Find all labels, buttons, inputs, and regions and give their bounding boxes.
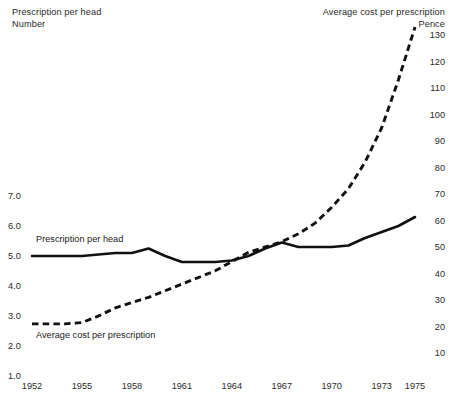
plot-area: [0, 0, 453, 402]
y-right-tick-10: 10: [415, 348, 445, 358]
y-right-tick-30: 30: [415, 295, 445, 305]
x-tick-1958: 1958: [112, 381, 152, 391]
x-tick-1961: 1961: [162, 381, 202, 391]
series-line-average-cost-per-prescription: [32, 27, 415, 324]
y-right-tick-40: 40: [415, 269, 445, 279]
x-tick-1975: 1975: [395, 381, 435, 391]
x-tick-1964: 1964: [212, 381, 252, 391]
left-axis-header: Prescription per head Number: [12, 6, 101, 31]
y-right-tick-120: 120: [415, 57, 445, 67]
y-left-tick-4.0: 4.0: [8, 281, 38, 291]
series-annotation-prescription-per-head: Prescription per head: [36, 234, 123, 245]
x-tick-1967: 1967: [262, 381, 302, 391]
y-right-tick-60: 60: [415, 216, 445, 226]
y-left-tick-3.0: 3.0: [8, 311, 38, 321]
x-tick-1955: 1955: [62, 381, 102, 391]
y-right-tick-70: 70: [415, 189, 445, 199]
chart-container: Prescription per head Number Average cos…: [0, 0, 453, 402]
y-right-tick-100: 100: [415, 110, 445, 120]
y-right-tick-20: 20: [415, 322, 445, 332]
right-axis-header: Average cost per prescription Pence: [323, 6, 445, 31]
y-right-tick-50: 50: [415, 242, 445, 252]
y-right-tick-130: 130: [415, 30, 445, 40]
y-right-tick-80: 80: [415, 163, 445, 173]
x-tick-1952: 1952: [12, 381, 52, 391]
y-left-tick-1.0: 1.0: [8, 371, 38, 381]
y-left-tick-2.0: 2.0: [8, 341, 38, 351]
y-left-tick-7.0: 7.0: [8, 191, 38, 201]
y-right-tick-110: 110: [415, 83, 445, 93]
y-left-tick-6.0: 6.0: [8, 221, 38, 231]
series-annotation-average-cost-per-prescription: Average cost per prescription: [36, 330, 155, 341]
y-left-tick-5.0: 5.0: [8, 251, 38, 261]
x-tick-1970: 1970: [312, 381, 352, 391]
y-right-tick-90: 90: [415, 136, 445, 146]
